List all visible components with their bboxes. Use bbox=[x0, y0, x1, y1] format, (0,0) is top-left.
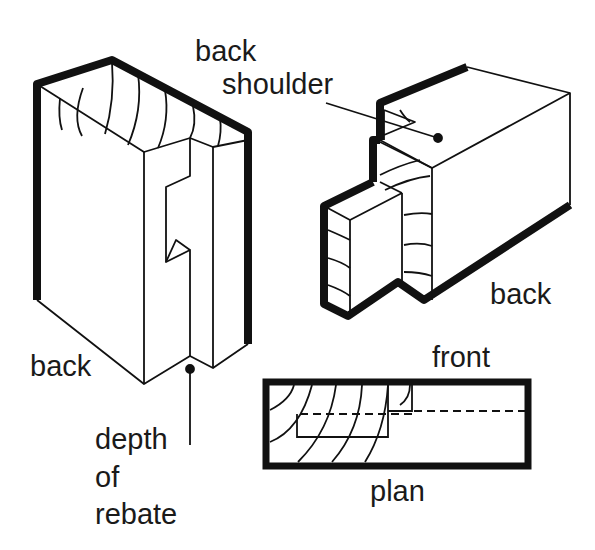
label-front: front bbox=[432, 343, 490, 372]
label-rebate: rebate bbox=[95, 500, 177, 529]
label-back-right: back bbox=[490, 280, 551, 309]
label-back-left: back bbox=[30, 352, 91, 381]
label-of: of bbox=[95, 463, 119, 492]
depth-leader bbox=[186, 365, 194, 445]
plan-view-figure bbox=[266, 382, 528, 466]
label-depth: depth bbox=[95, 425, 168, 454]
label-plan: plan bbox=[370, 477, 425, 506]
rebated-post-figure bbox=[37, 60, 248, 384]
label-back-shoulder-2: shoulder bbox=[222, 70, 333, 99]
label-back-shoulder-1: back bbox=[195, 37, 256, 66]
